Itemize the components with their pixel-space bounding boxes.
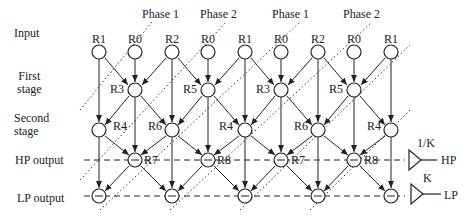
input-node-label: R1 xyxy=(92,32,106,47)
hp-node-label: R8 xyxy=(364,153,378,168)
second-stage-node-label: R6 xyxy=(294,119,308,134)
hp-gain-label: 1/K xyxy=(417,136,435,151)
phase-label: Phase 1 xyxy=(142,8,179,21)
second-stage-node-label: R4 xyxy=(367,119,381,134)
lp-output-label: LP xyxy=(444,188,458,203)
diagram-graphics xyxy=(0,0,472,217)
row-label-lp-output: LP output xyxy=(17,192,64,205)
second-stage-node-label: R4 xyxy=(219,119,233,134)
row-label-hp-output: HP output xyxy=(15,154,64,167)
input-node-label: R2 xyxy=(311,32,325,47)
row-label-stage-line: stage xyxy=(14,125,49,138)
first-stage-node-label: R5 xyxy=(329,82,343,97)
lp-gain-label: K xyxy=(423,171,432,186)
first-stage-node-label: R3 xyxy=(256,82,270,97)
input-node-label: R0 xyxy=(347,32,361,47)
input-node-label: R0 xyxy=(201,32,215,47)
row-label-second-stage: Second stage xyxy=(14,112,49,138)
input-node-label: R0 xyxy=(274,32,288,47)
phase-label: Phase 2 xyxy=(343,8,380,21)
phase-label: Phase 2 xyxy=(200,8,237,21)
hp-node-label: R8 xyxy=(217,153,231,168)
hp-output-label: HP xyxy=(441,153,456,168)
second-stage-node-label: R6 xyxy=(148,119,162,134)
phase-label: Phase 1 xyxy=(272,8,309,21)
row-label-stage-line: stage xyxy=(17,83,42,96)
hp-node-label: R7 xyxy=(144,153,158,168)
input-node-label: R1 xyxy=(238,32,252,47)
input-node-label: R1 xyxy=(384,32,398,47)
lattice-filter-diagram: Input First stage Second stage HP output… xyxy=(0,0,472,217)
row-label-first-stage: First stage xyxy=(17,70,42,96)
first-stage-node-label: R3 xyxy=(110,82,124,97)
hp-node-label: R7 xyxy=(291,153,305,168)
second-stage-node-label: R4 xyxy=(113,119,127,134)
row-label-input: Input xyxy=(14,27,39,40)
input-node-label: R0 xyxy=(128,32,142,47)
first-stage-node-label: R5 xyxy=(183,82,197,97)
input-node-label: R2 xyxy=(165,32,179,47)
